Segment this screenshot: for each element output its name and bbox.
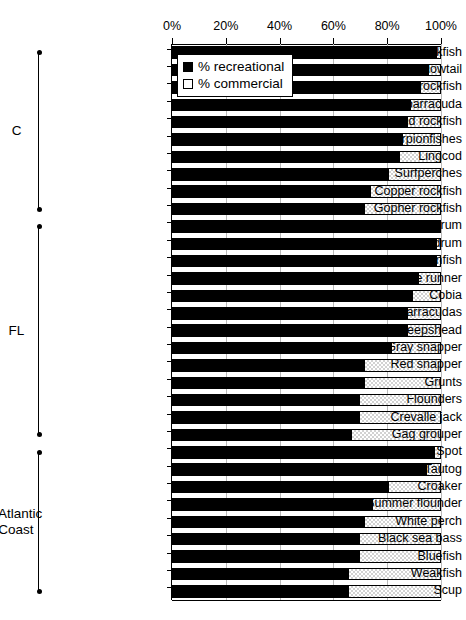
x-axis-bottom <box>172 600 441 601</box>
category-label: Lingcod <box>298 150 466 163</box>
category-label: Gag grouper <box>298 428 466 441</box>
legend: % recreational % commercial <box>177 54 293 97</box>
category-label: Crevalle jack <box>298 411 466 424</box>
legend-swatch-recreational-icon <box>183 62 193 72</box>
x-axis-tick-label: 60% <box>321 19 346 33</box>
x-axis-tick-label: 40% <box>267 19 292 33</box>
group-label: FL <box>0 323 33 339</box>
bracket-cap-icon <box>37 450 42 455</box>
group-label: Atlantic Coast <box>0 506 34 538</box>
category-label: Weakfish <box>298 567 466 580</box>
x-axis-tick-label: 100% <box>425 19 457 33</box>
category-label: Grunts <box>298 376 466 389</box>
category-label: Black sea bass <box>298 532 466 545</box>
stacked-bar-chart: 0%20%40%60%80%100% Olive rockfishYellowt… <box>0 0 466 620</box>
category-label: Red snapper <box>298 358 466 371</box>
bracket-cap-icon <box>37 224 42 229</box>
legend-label-recreational: % recreational <box>198 58 284 75</box>
category-label: Black drum <box>298 237 466 250</box>
category-label: Pacific barracuda <box>298 98 466 111</box>
legend-label-commercial: % commercial <box>198 75 283 92</box>
bracket-cap-icon <box>37 432 42 437</box>
x-axis-tick-label: 80% <box>375 19 400 33</box>
bracket-cap-icon <box>37 50 42 55</box>
category-label: Blue rockfish <box>298 80 466 93</box>
category-label: Blue runner <box>298 272 466 285</box>
category-label: Copper rockfish <box>298 185 466 198</box>
bracket-cap-icon <box>37 589 42 594</box>
category-label: Yellowtail <box>298 63 466 76</box>
category-label: Greenspotted rockfish <box>298 115 466 128</box>
category-label: Sheepshead <box>298 324 466 337</box>
category-label: Flounders <box>298 393 466 406</box>
category-label: Gopher rockfish <box>298 202 466 215</box>
category-label: Summer flounder <box>298 497 466 510</box>
category-label: Spot <box>298 445 466 458</box>
category-label: Surfperches <box>298 167 466 180</box>
category-label: Bluefish <box>298 550 466 563</box>
x-axis-tick-label: 20% <box>213 19 238 33</box>
category-label: Scup <box>298 584 466 597</box>
x-axis-tick-label: 0% <box>163 19 181 33</box>
category-label: Olive rockfish <box>298 46 466 59</box>
category-label: Scorpionfishes <box>298 133 466 146</box>
category-label: Red drum <box>298 219 466 232</box>
legend-item-commercial: % commercial <box>183 75 284 92</box>
category-label: Cobia <box>298 289 466 302</box>
legend-swatch-commercial-icon <box>183 79 193 89</box>
category-label: White perch <box>298 515 466 528</box>
category-label: Gray snapper <box>298 341 466 354</box>
category-label: Croaker <box>298 480 466 493</box>
group-label: C <box>0 123 33 139</box>
legend-item-recreational: % recreational <box>183 58 284 75</box>
group-bracket <box>38 226 39 435</box>
group-bracket <box>38 452 39 591</box>
bracket-cap-icon <box>37 207 42 212</box>
group-bracket <box>38 53 39 209</box>
category-label: Barracudas <box>298 306 466 319</box>
category-label: Tautog <box>298 463 466 476</box>
category-label: Pinfish <box>298 254 466 267</box>
